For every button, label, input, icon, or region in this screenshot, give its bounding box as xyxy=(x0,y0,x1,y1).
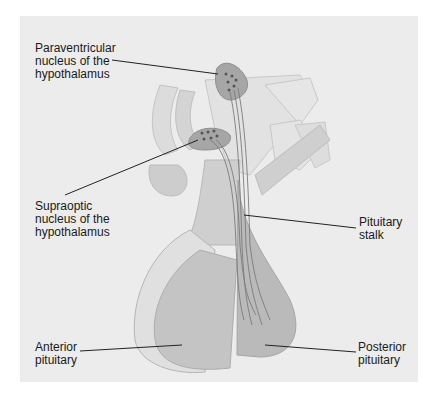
paraventricular-nucleus xyxy=(215,63,247,100)
optic-chiasm xyxy=(149,165,187,196)
label-posterior-pituitary: Posterior pituitary xyxy=(358,341,406,367)
label-paraventricular-nucleus: Paraventricular nucleus of the hypothala… xyxy=(35,42,116,81)
supraoptic-nucleus xyxy=(189,128,231,150)
label-pituitary-stalk: Pituitary stalk xyxy=(359,216,402,242)
label-anterior-pituitary: Anterior pituitary xyxy=(35,341,77,367)
fornix-structure xyxy=(152,85,178,155)
posterior-pituitary xyxy=(237,180,296,357)
label-supraoptic-nucleus: Supraoptic nucleus of the hypothalamus xyxy=(35,200,110,239)
